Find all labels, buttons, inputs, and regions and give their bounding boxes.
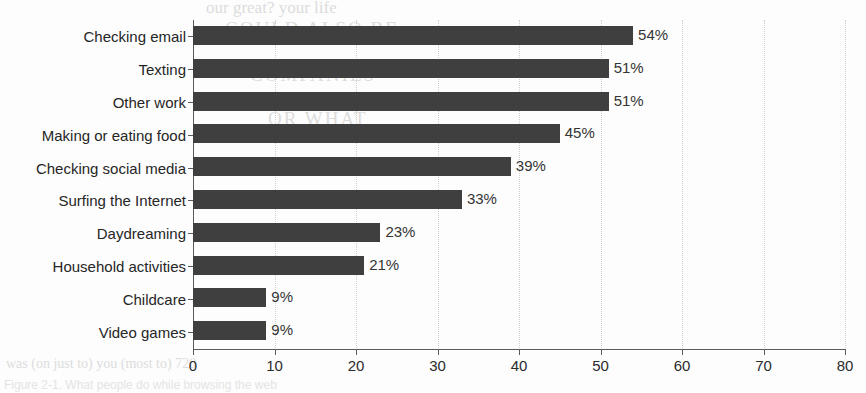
category-tick [188, 36, 193, 37]
bar-chart-figure: our great? your life COULD ALSO BE COMPA… [0, 0, 866, 393]
bar [193, 92, 609, 111]
category-label: Childcare [0, 289, 186, 310]
bar-value-label: 51% [614, 57, 644, 78]
bar-value-label: 21% [369, 254, 399, 275]
bar-row: 54% [193, 20, 845, 52]
x-tick-label: 10 [266, 357, 283, 374]
x-tick-mark [193, 350, 194, 355]
bar-row: 23% [193, 217, 845, 249]
bar-value-label: 23% [385, 221, 415, 242]
bar [193, 321, 266, 340]
bar-row: 39% [193, 151, 845, 183]
bar-value-label: 45% [565, 122, 595, 143]
category-label: Daydreaming [0, 223, 186, 244]
x-tick-mark [601, 350, 602, 355]
x-tick-mark [356, 350, 357, 355]
x-tick-label: 30 [429, 357, 446, 374]
x-tick-label: 50 [592, 357, 609, 374]
bar [193, 223, 380, 242]
bar-value-label: 9% [271, 319, 293, 340]
category-tick [188, 135, 193, 136]
bar [193, 157, 511, 176]
bar-value-label: 54% [638, 24, 668, 45]
category-label: Checking email [0, 26, 186, 47]
category-label: Household activities [0, 256, 186, 277]
bar-row: 33% [193, 184, 845, 216]
x-tick-mark [845, 350, 846, 355]
bleed-text-top: our great? your life [206, 0, 337, 18]
bar-value-label: 9% [271, 286, 293, 307]
gridline-80 [845, 20, 846, 348]
figure-caption: Figure 2-1. What people do while browsin… [4, 378, 277, 392]
bar-row: 21% [193, 250, 845, 282]
bar-value-label: 39% [516, 155, 546, 176]
category-label: Checking social media [0, 158, 186, 179]
category-tick [188, 69, 193, 70]
bar-row: 51% [193, 86, 845, 118]
category-label: Surfing the Internet [0, 190, 186, 211]
bar [193, 26, 633, 45]
category-tick [188, 168, 193, 169]
category-tick [188, 332, 193, 333]
x-tick-mark [438, 350, 439, 355]
category-tick [188, 299, 193, 300]
category-tick [188, 266, 193, 267]
bar [193, 124, 560, 143]
bar-row: 9% [193, 282, 845, 314]
bar [193, 288, 266, 307]
x-tick-mark [275, 350, 276, 355]
category-tick [188, 200, 193, 201]
x-tick-label: 20 [348, 357, 365, 374]
bar [193, 190, 462, 209]
category-label: Texting [0, 59, 186, 80]
x-tick-mark [764, 350, 765, 355]
x-tick-label: 70 [755, 357, 772, 374]
category-label: Making or eating food [0, 125, 186, 146]
bar [193, 256, 364, 275]
bar-row: 9% [193, 315, 845, 347]
bar-row: 51% [193, 53, 845, 85]
bar [193, 59, 609, 78]
bar-value-label: 33% [467, 188, 497, 209]
category-tick [188, 102, 193, 103]
bar-value-label: 51% [614, 90, 644, 111]
category-label: Video games [0, 322, 186, 343]
x-tick-label: 0 [189, 357, 197, 374]
chart-title [0, 0, 866, 1]
bleed-text-axis: was (on just to) you (most to) 720 [6, 356, 196, 372]
category-label: Other work [0, 92, 186, 113]
bar-row: 45% [193, 118, 845, 150]
x-tick-mark [519, 350, 520, 355]
category-tick [188, 233, 193, 234]
x-tick-label: 40 [511, 357, 528, 374]
x-tick-label: 60 [674, 357, 691, 374]
x-tick-label: 80 [837, 357, 854, 374]
x-tick-mark [682, 350, 683, 355]
